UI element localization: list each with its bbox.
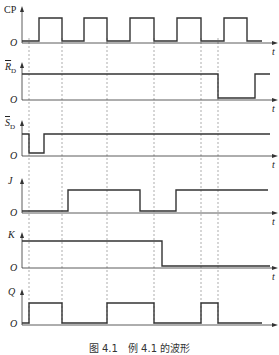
origin-label: O xyxy=(10,94,17,105)
time-label: t xyxy=(272,46,275,57)
waveform-k xyxy=(22,241,270,266)
time-label: t xyxy=(272,271,275,282)
waveform-rd_bar xyxy=(22,74,270,98)
arrow-icon xyxy=(272,98,278,102)
signal-label-cp: CP xyxy=(4,4,16,15)
signal-label-j: J xyxy=(8,175,12,186)
arrow-icon xyxy=(20,62,24,68)
arrow-icon xyxy=(272,266,278,270)
waveform-sd_bar xyxy=(22,134,270,153)
arrow-icon xyxy=(20,289,24,295)
time-label: t xyxy=(272,159,275,170)
signal-label-k: K xyxy=(8,229,15,240)
waveform-j xyxy=(22,190,268,211)
arrow-icon xyxy=(20,178,24,184)
signal-label-q: Q xyxy=(8,286,15,297)
waveform-cp xyxy=(22,18,262,41)
arrow-icon xyxy=(272,154,278,158)
rd-subscript: D xyxy=(11,67,16,75)
origin-label: O xyxy=(10,207,17,218)
origin-label: O xyxy=(10,37,17,48)
arrow-icon xyxy=(20,6,24,12)
signal-label-sd: SD xyxy=(5,117,15,131)
time-label: t xyxy=(272,216,275,227)
arrow-icon xyxy=(20,232,24,238)
origin-label: O xyxy=(10,150,17,161)
time-label: t xyxy=(272,103,275,114)
origin-label: O xyxy=(10,262,17,273)
sd-subscript: D xyxy=(10,123,15,131)
figure-caption: 图 4.1 例 4.1 的波形 xyxy=(0,340,279,355)
arrow-icon xyxy=(272,211,278,215)
origin-label: O xyxy=(10,318,17,329)
arrow-icon xyxy=(272,41,278,45)
arrow-icon xyxy=(20,120,24,126)
signal-label-rd: RD xyxy=(5,61,16,75)
arrow-icon xyxy=(272,323,278,327)
waveform-q xyxy=(22,303,262,323)
